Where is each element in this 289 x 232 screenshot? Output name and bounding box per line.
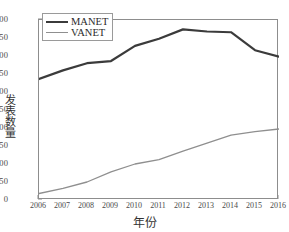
legend-entry-manet[interactable]: MANET: [46, 16, 108, 27]
y-tick-label: 7500: [0, 86, 8, 96]
x-tick-label: 2013: [198, 201, 214, 210]
legend-swatch-manet: [46, 21, 68, 23]
x-tick-label: 2015: [246, 201, 262, 210]
y-tick-label: 5000: [0, 122, 8, 132]
y-tick-label: 8750: [0, 68, 8, 78]
series-svg: [39, 20, 279, 200]
plot-area: [38, 19, 278, 199]
x-tick-label: 2012: [174, 201, 190, 210]
legend-entry-vanet[interactable]: VANET: [46, 27, 108, 38]
y-tick-label: 0: [4, 194, 8, 204]
legend-swatch-vanet: [46, 32, 68, 33]
y-tick-label: 6250: [0, 104, 8, 114]
x-tick-label: 2016: [270, 201, 286, 210]
x-tick-label: 2009: [102, 201, 118, 210]
y-tick-label: 2500: [0, 158, 8, 168]
chart-container: 发表数量 01250250037505000625075008750100001…: [0, 0, 289, 232]
x-tick-label: 2006: [30, 201, 46, 210]
x-tick-label: 2011: [150, 201, 166, 210]
x-axis-label: 年份: [0, 213, 289, 230]
x-tick-label: 2014: [222, 201, 238, 210]
x-tick-label: 2010: [126, 201, 142, 210]
x-tick-label: 2007: [54, 201, 70, 210]
legend-label-manet: MANET: [71, 16, 108, 27]
y-tick-label: 1250: [0, 176, 8, 186]
series-line-vanet: [39, 129, 279, 194]
y-tick-label: 3750: [0, 140, 8, 150]
y-tick-label: 10000: [0, 50, 8, 60]
legend: MANET VANET: [42, 13, 113, 41]
y-tick-label: 12500: [0, 14, 8, 24]
legend-label-vanet: VANET: [71, 27, 105, 38]
x-tick-label: 2008: [78, 201, 94, 210]
y-tick-label: 11250: [0, 32, 8, 42]
